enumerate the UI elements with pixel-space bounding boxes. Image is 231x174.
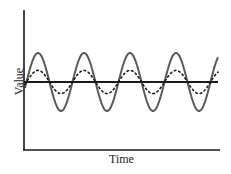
y-axis-label: Value [12,64,27,100]
plot-area [24,53,218,111]
x-axis-label: Time [0,152,231,167]
sine-wave-chart [0,0,231,174]
